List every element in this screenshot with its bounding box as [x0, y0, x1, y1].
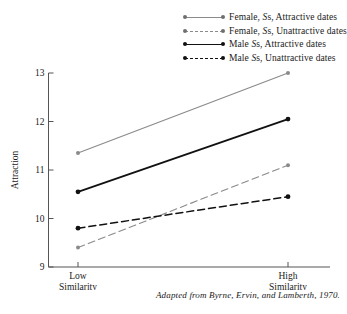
plot-area: 910111213 LowSimilarityHighSimilarity At…: [0, 0, 346, 290]
line-chart-svg: 910111213 LowSimilarityHighSimilarity At…: [0, 0, 346, 290]
x-tick-label-line2: Similarity: [269, 282, 307, 290]
data-point: [286, 194, 291, 199]
y-tick-label: 13: [35, 68, 45, 78]
x-tick-label-line1: High: [279, 271, 298, 281]
x-tick-label-line2: Similarity: [59, 282, 97, 290]
x-axis-ticks: LowSimilarityHighSimilarity: [59, 262, 307, 290]
data-point: [76, 189, 81, 194]
y-tick-label: 10: [35, 214, 45, 224]
y-axis-title: Attraction: [10, 150, 20, 189]
y-tick-label: 9: [40, 262, 45, 272]
y-tick-label: 11: [35, 165, 44, 175]
series-line: [78, 73, 288, 153]
data-point: [286, 117, 291, 122]
series-line: [78, 119, 288, 192]
data-point: [286, 163, 290, 167]
figure-caption: Adapted from Byrne, Ervin, and Lamberth,…: [0, 290, 340, 300]
series-3: [76, 194, 291, 230]
y-axis-ticks: 910111213: [35, 68, 54, 272]
data-point: [76, 246, 80, 250]
series-1: [76, 163, 290, 249]
data-point: [76, 151, 80, 155]
series-2: [76, 117, 291, 195]
series-line: [78, 165, 288, 247]
data-point: [286, 71, 290, 75]
x-tick-label-line1: Low: [69, 271, 87, 281]
y-tick-label: 12: [35, 117, 45, 127]
data-point: [76, 226, 81, 231]
series-layer: [76, 71, 291, 250]
series-0: [76, 71, 290, 155]
series-line: [78, 197, 288, 229]
